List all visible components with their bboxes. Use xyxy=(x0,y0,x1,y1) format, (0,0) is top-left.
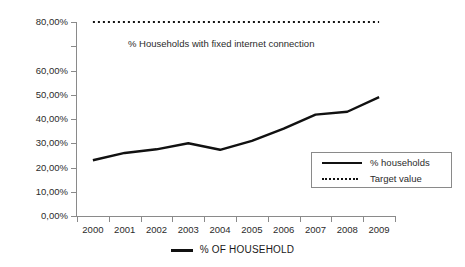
series-line-households xyxy=(93,97,379,160)
dotted-line-swatch-icon xyxy=(320,173,364,185)
bottom-series-legend-label: % OF HOUSEHOLD xyxy=(200,244,294,256)
solid-line-swatch-icon xyxy=(320,157,364,169)
chart-legend: % households Target value xyxy=(311,152,452,188)
legend-entry-label: % households xyxy=(370,157,430,169)
bottom-series-legend: % OF HOUSEHOLD xyxy=(0,244,465,256)
legend-entry-label: Target value xyxy=(370,173,422,185)
plot-annotation-label: % Households with fixed internet connect… xyxy=(128,38,314,50)
legend-entry-households: % households xyxy=(312,155,453,171)
chart-container: 0,00%10,00%20,00%30,00%40,00%50,00%60,00… xyxy=(0,0,465,267)
legend-entry-target: Target value xyxy=(312,171,453,187)
solid-line-swatch-icon xyxy=(171,249,193,252)
